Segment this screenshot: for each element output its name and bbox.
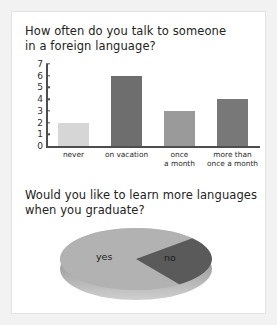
x-axis-line — [46, 146, 260, 148]
x-axis-label-never: never — [47, 150, 100, 159]
y-axis-tick-mark — [46, 98, 50, 99]
charts-card: How often do you talk to someone in a fo… — [11, 11, 266, 314]
y-axis-tick-mark — [46, 63, 50, 64]
y-axis-tick-label: 2 — [37, 118, 43, 127]
x-axis-label-once-a-month: once a month — [153, 150, 206, 168]
x-axis-label-on-vacation: on vacation — [100, 150, 153, 159]
y-axis-tick-mark — [46, 134, 50, 135]
y-axis-tick-mark — [46, 87, 50, 88]
y-axis-tick-label: 1 — [37, 130, 43, 139]
bar-on-vacation — [111, 76, 142, 146]
pie-slices-svg — [60, 228, 212, 290]
y-axis-tick-label: 7 — [37, 60, 43, 69]
y-axis-tick-label: 6 — [37, 71, 43, 80]
y-axis-tick-label: 4 — [37, 95, 43, 104]
y-axis-tick-mark — [46, 122, 50, 123]
pie-label-no: no — [164, 252, 176, 263]
bar-never — [58, 123, 89, 146]
pie-chart: yes no — [60, 226, 220, 310]
x-axis-label-more-than-once-a-month: more than once a month — [206, 150, 259, 168]
pie-top-face — [60, 228, 212, 290]
y-axis-tick-mark — [46, 110, 50, 111]
clipped-top-text — [0, 0, 277, 11]
y-axis-tick-label: 5 — [37, 83, 43, 92]
pie-label-yes: yes — [96, 251, 112, 262]
question-2-title: Would you like to learn more languages w… — [25, 188, 261, 218]
worksheet-page: How often do you talk to someone in a fo… — [0, 0, 277, 325]
bar-more-than-once-a-month — [217, 99, 248, 146]
y-axis-tick-label: 0 — [37, 142, 43, 151]
question-1-title: How often do you talk to someone in a fo… — [25, 24, 257, 54]
bar-once-a-month — [164, 111, 195, 146]
y-axis-tick-mark — [46, 75, 50, 76]
bar-chart: 01234567 neveron vacationonce a monthmor… — [25, 62, 263, 182]
y-axis-tick-label: 3 — [37, 106, 43, 115]
